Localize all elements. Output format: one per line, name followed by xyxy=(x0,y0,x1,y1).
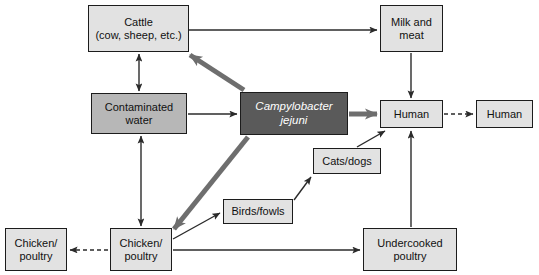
node-cats-dogs-label: Cats/dogs xyxy=(314,155,380,168)
node-campylobacter-jejuni[interactable]: Campylobacterjejuni xyxy=(240,92,348,135)
node-undercooked-poultry-label: Undercookedpoultry xyxy=(364,237,456,263)
node-undercooked-poultry[interactable]: Undercookedpoultry xyxy=(363,228,457,271)
node-milk-and-meat[interactable]: Milk andmeat xyxy=(380,5,443,52)
node-human-secondary-label: Human xyxy=(477,108,532,121)
edge-layer xyxy=(0,0,539,275)
edge-cats-to-human xyxy=(357,131,385,147)
edge-birds-to-cats xyxy=(294,177,311,200)
node-cats-dogs[interactable]: Cats/dogs xyxy=(313,148,381,174)
node-human-primary-label: Human xyxy=(381,108,442,121)
node-contaminated-water-label: Contaminatedwater xyxy=(92,101,186,127)
node-human-primary[interactable]: Human xyxy=(380,100,443,128)
node-birds-fowls[interactable]: Birds/fowls xyxy=(223,199,293,224)
node-chicken-poultry-center-label: Chicken/poultry xyxy=(111,237,171,263)
node-contaminated-water[interactable]: Contaminatedwater xyxy=(91,93,187,134)
node-chicken-poultry-center[interactable]: Chicken/poultry xyxy=(110,228,172,271)
node-milk-and-meat-label: Milk andmeat xyxy=(381,16,442,42)
node-birds-fowls-label: Birds/fowls xyxy=(224,205,292,218)
edge-campylobacter-to-cattle xyxy=(190,55,244,90)
diagram-canvas: Cattle(cow, sheep, etc.) Milk andmeat Co… xyxy=(0,0,539,275)
node-cattle[interactable]: Cattle(cow, sheep, etc.) xyxy=(88,5,189,52)
node-chicken-poultry-left[interactable]: Chicken/poultry xyxy=(5,228,67,271)
node-chicken-poultry-left-label: Chicken/poultry xyxy=(6,237,66,263)
edge-chicken-to-birds xyxy=(173,213,220,239)
node-human-secondary[interactable]: Human xyxy=(476,100,533,128)
node-campylobacter-jejuni-label: Campylobacterjejuni xyxy=(241,100,347,127)
node-cattle-label: Cattle(cow, sheep, etc.) xyxy=(89,16,188,42)
